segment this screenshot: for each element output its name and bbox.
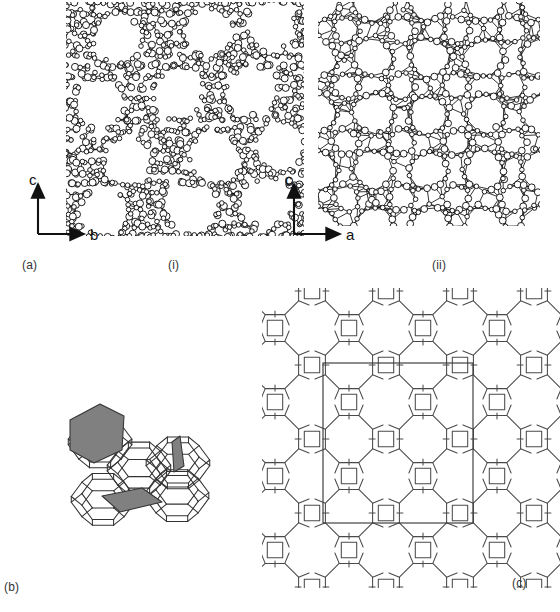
subpanel-label-ii: (ii) (432, 258, 446, 272)
shaded-sliver-window (172, 436, 184, 472)
axis-label-c-panel-ii: c (285, 171, 293, 188)
panel-label-b: (b) (4, 580, 19, 594)
panel-b-cage-model (14, 330, 264, 602)
panel-label-a: (a) (22, 258, 37, 272)
axis-label-c-panel-i: c (29, 171, 37, 188)
net-diagram (262, 288, 560, 588)
panel-label-c: (c) (512, 576, 527, 590)
panel-a-i-structure (66, 2, 304, 236)
unit-cell-outline (323, 363, 473, 523)
panel-c-net-diagram (262, 288, 560, 588)
framework-projection-i (66, 2, 304, 236)
subpanel-label-i: (i) (168, 258, 179, 272)
polyhedral-cage-diagram (14, 330, 264, 602)
figure-root: c b (a) (i) c a (ii) (b) (c) (0, 0, 560, 612)
axis-label-a-panel-ii: a (346, 226, 354, 243)
axis-label-b-panel-i: b (90, 226, 98, 243)
